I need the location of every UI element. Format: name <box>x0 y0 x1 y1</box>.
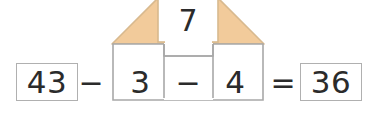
result-box[interactable]: 36 <box>300 63 362 101</box>
notch-clear <box>165 40 212 55</box>
subtrahend-2-value[interactable]: 4 <box>218 63 252 101</box>
equals-operator: = <box>271 64 295 102</box>
subtrahend-1-value[interactable]: 3 <box>123 63 157 101</box>
minuend-box[interactable]: 43 <box>16 63 78 101</box>
minus-operator-2: − <box>177 64 199 102</box>
minus-operator-1: − <box>80 64 102 102</box>
worksheet-canvas: 43 − 7 3 − 4 = 36 <box>0 0 386 114</box>
roof-value[interactable]: 7 <box>160 2 216 40</box>
